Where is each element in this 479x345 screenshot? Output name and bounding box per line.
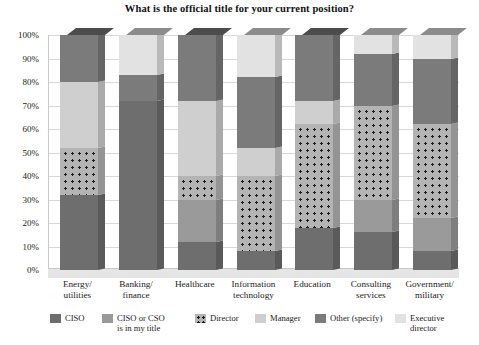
y-axis-tick-label: 70% [23, 101, 40, 110]
legend-swatch [255, 314, 266, 323]
bar-segment[interactable] [237, 176, 275, 251]
legend-item[interactable]: Manager [255, 313, 301, 323]
bar-front-face [295, 35, 333, 270]
plot-area [48, 35, 459, 270]
bar-group[interactable] [354, 35, 392, 270]
x-axis-tick-label: Banking/ finance [107, 279, 166, 301]
chart-legend: CISOCISO or CSO is in my titleDirectorMa… [50, 313, 470, 341]
bar-segment[interactable] [413, 218, 451, 251]
legend-label: Executive director [410, 313, 470, 333]
bar-segment[interactable] [178, 242, 216, 270]
bar-segment-side [275, 250, 282, 270]
bar-segment[interactable] [413, 124, 451, 218]
bar-segment-side [157, 99, 164, 270]
bar-segment-side [275, 146, 282, 176]
bar-segment[interactable] [354, 106, 392, 200]
bar-segment[interactable] [60, 195, 98, 270]
bar-front-face [413, 35, 451, 270]
bar-segment[interactable] [413, 59, 451, 125]
bar-segment[interactable] [178, 101, 216, 176]
bar-segment[interactable] [237, 148, 275, 176]
bar-segment[interactable] [354, 35, 392, 54]
legend-swatch [395, 314, 406, 323]
chart-container: What is the official title for your curr… [0, 0, 479, 345]
bar-segment[interactable] [354, 232, 392, 270]
bar-segment[interactable] [295, 101, 333, 125]
bar-segment-side [216, 99, 223, 176]
x-axis-tick-label: Consulting services [342, 279, 401, 301]
bar-group[interactable] [295, 35, 333, 270]
y-axis-tick-label: 90% [23, 54, 40, 63]
bar-front-face [237, 35, 275, 270]
y-axis-tick-label: 0% [27, 266, 39, 275]
bar-segment-side [451, 123, 458, 218]
x-axis-tick-label: Information technology [224, 279, 283, 301]
bar-top-face [185, 28, 232, 35]
y-axis-labels: 0%10%20%30%40%50%60%70%80%90%100% [0, 35, 44, 270]
bar-group[interactable] [60, 35, 98, 270]
bar-side-face [392, 34, 399, 270]
bar-segment[interactable] [119, 101, 157, 270]
x-axis-labels: Energy/ utilitiesBanking/ financeHealthc… [48, 279, 459, 309]
y-axis-tick-label: 20% [23, 219, 40, 228]
bar-segment-side [451, 57, 458, 124]
y-axis-tick-label: 30% [23, 195, 40, 204]
bar-segment[interactable] [354, 54, 392, 106]
bar-segment[interactable] [295, 35, 333, 101]
bar-segment-side [98, 34, 105, 82]
legend-item[interactable]: Other (specify) [315, 313, 382, 323]
bar-series-group [48, 35, 459, 270]
bar-segment-side [333, 99, 340, 124]
bar-front-face [60, 35, 98, 270]
bar-front-face [354, 35, 392, 270]
legend-item[interactable]: Executive director [395, 313, 470, 333]
bar-segment[interactable] [413, 251, 451, 270]
legend-item[interactable]: CISO [50, 313, 85, 323]
bar-segment[interactable] [60, 82, 98, 148]
bar-group[interactable] [237, 35, 275, 270]
bar-segment-side [392, 198, 399, 232]
bar-segment[interactable] [60, 148, 98, 195]
bar-segment-side [451, 34, 458, 59]
bar-segment-side [98, 81, 105, 148]
bar-group[interactable] [119, 35, 157, 270]
y-axis-tick-label: 10% [23, 242, 40, 251]
bar-top-face [126, 28, 173, 35]
bar-top-face [67, 28, 114, 35]
bar-segment-side [216, 198, 223, 242]
legend-swatch [195, 314, 206, 323]
bar-side-face [157, 34, 164, 270]
bar-segment-side [216, 175, 223, 200]
y-axis-tick-label: 40% [23, 172, 40, 181]
y-axis-tick-label: 60% [23, 125, 40, 134]
bar-group[interactable] [178, 35, 216, 270]
bar-segment[interactable] [295, 228, 333, 270]
bar-segment-side [275, 76, 282, 148]
bar-segment[interactable] [178, 200, 216, 242]
bar-segment[interactable] [178, 35, 216, 101]
bar-segment[interactable] [237, 35, 275, 77]
bar-top-face [244, 28, 291, 35]
bar-segment-side [392, 52, 399, 105]
bar-segment[interactable] [119, 35, 157, 75]
legend-label: Other (specify) [330, 313, 382, 323]
legend-item[interactable]: Director [195, 313, 239, 323]
bar-segment[interactable] [413, 35, 451, 59]
bar-segment-side [216, 240, 223, 270]
bar-segment-side [275, 175, 282, 252]
bar-segment-side [275, 34, 282, 78]
bar-side-face [451, 34, 458, 270]
bar-segment[interactable] [237, 77, 275, 148]
bar-segment[interactable] [237, 251, 275, 270]
x-axis-tick-label: Government/ military [400, 279, 459, 301]
bar-segment[interactable] [178, 176, 216, 200]
bar-group[interactable] [413, 35, 451, 270]
legend-label: Director [210, 313, 239, 323]
legend-item[interactable]: CISO or CSO is in my title [102, 313, 165, 333]
bar-segment[interactable] [354, 200, 392, 233]
bar-top-face [420, 28, 467, 35]
bar-segment[interactable] [295, 124, 333, 227]
bar-segment[interactable] [60, 35, 98, 82]
bar-segment[interactable] [119, 75, 157, 101]
bar-side-face [275, 34, 282, 270]
